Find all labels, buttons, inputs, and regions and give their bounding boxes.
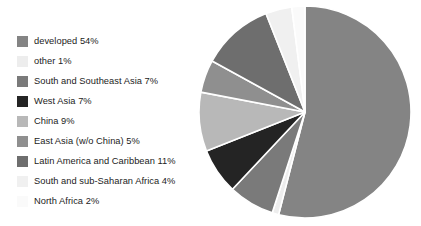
legend-item: North Africa 2%: [17, 191, 192, 211]
pie-chart-figure: developed 54%other 1%South and Southeast…: [0, 0, 421, 226]
pie-svg: [198, 5, 412, 219]
legend-item: South and sub-Saharan Africa 4%: [17, 171, 192, 191]
legend-item: China 9%: [17, 111, 192, 131]
legend-swatch-icon: [17, 76, 28, 87]
pie-chart-area: [198, 5, 412, 219]
legend-item: Latin America and Caribbean 11%: [17, 151, 192, 171]
legend-item-label: China 9%: [34, 116, 75, 127]
legend-item: other 1%: [17, 51, 192, 71]
legend-item-label: other 1%: [34, 56, 72, 67]
chart-legend: developed 54%other 1%South and Southeast…: [17, 31, 192, 211]
legend-swatch-icon: [17, 136, 28, 147]
legend-swatch-icon: [17, 176, 28, 187]
legend-swatch-icon: [17, 96, 28, 107]
legend-item: developed 54%: [17, 31, 192, 51]
legend-item-label: South and Southeast Asia 7%: [34, 76, 158, 87]
legend-item-label: developed 54%: [34, 36, 99, 47]
legend-item-label: Latin America and Caribbean 11%: [34, 156, 176, 167]
legend-item-label: East Asia (w/o China) 5%: [34, 136, 140, 147]
legend-swatch-icon: [17, 36, 28, 47]
legend-swatch-icon: [17, 156, 28, 167]
legend-item-label: North Africa 2%: [34, 196, 99, 207]
legend-item-label: South and sub-Saharan Africa 4%: [34, 176, 175, 187]
legend-swatch-icon: [17, 56, 28, 67]
legend-swatch-icon: [17, 116, 28, 127]
legend-item: East Asia (w/o China) 5%: [17, 131, 192, 151]
legend-item: West Asia 7%: [17, 91, 192, 111]
legend-swatch-icon: [17, 196, 28, 207]
legend-item-label: West Asia 7%: [34, 96, 92, 107]
legend-item: South and Southeast Asia 7%: [17, 71, 192, 91]
